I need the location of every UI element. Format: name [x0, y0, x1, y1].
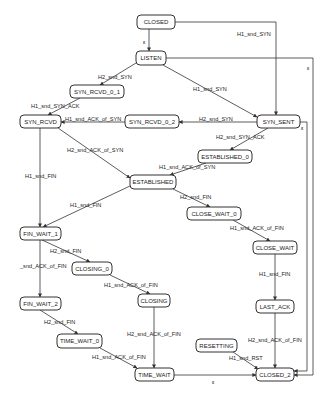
node-established-0: ESTABLISHED_0: [198, 150, 252, 163]
edge-label-est-closewait0: H2_snd_FIN: [180, 194, 211, 200]
edge-labels: ε H1_snd_SYN H2_snd_SYN H1_snd_SYN ε H1_…: [19, 31, 310, 385]
node-syn-rcvd-0-2: SYN_RCVD_0_2: [125, 115, 179, 128]
node-close-wait: CLOSE_WAIT: [253, 241, 297, 254]
edge-label-lastack-closed2: H2_snd_ACK_of_FIN: [248, 337, 302, 343]
nodes: CLOSED LISTEN SYN_RCVD_0_1 SYN_RCVD SYN_…: [20, 15, 300, 381]
node-syn-sent: SYN_SENT: [257, 115, 300, 128]
node-label-syn-rcvd-0-1: SYN_RCVD_0_1: [74, 89, 121, 95]
node-time-wait: TIME_WAIT: [135, 368, 174, 381]
node-label-resetting: RESETTING: [199, 343, 234, 349]
node-label-fin-wait-1: FIN_WAIT_1: [23, 231, 58, 237]
node-listen: LISTEN: [136, 51, 166, 65]
edge-label-timewait-closed2: ε: [212, 379, 215, 385]
edge-label-listen-closed2: ε: [307, 65, 310, 71]
node-label-closed-2: CLOSED_2: [259, 372, 291, 378]
node-label-syn-rcvd: SYN_RCVD: [24, 119, 57, 125]
edge-label-finwait2-timewait0: H2_snd_FIN: [44, 319, 75, 325]
node-fin-wait-2: FIN_WAIT_2: [20, 297, 61, 310]
node-label-fin-wait-2: FIN_WAIT_2: [23, 301, 58, 307]
node-closing-0: CLOSING_0: [72, 262, 112, 275]
edge-label-est-finwait1: H1_snd_FIN: [70, 202, 101, 208]
edge-label-synsent-synrcvd02: H2_snd_SYN: [199, 116, 233, 122]
edge-label-closing-timewait: H2_snd_ACK_of_FIN: [127, 331, 181, 337]
edge-label-closing0-closing: H1_snd_ACK_of_FIN: [104, 282, 158, 288]
edge-label-timewait0-timewait: H1_snd_ACK_of_FIN: [92, 354, 146, 360]
node-label-closed: CLOSED: [144, 19, 169, 25]
edge-label-closewait0-closewait: H1_snd_ACK_of_FIN: [230, 225, 284, 231]
edge-label-synsent-closed2: ε: [301, 125, 304, 131]
edge-label-closed-listen: ε: [143, 39, 146, 45]
node-fin-wait-1: FIN_WAIT_1: [20, 227, 61, 240]
edge-label-synrcvd-finwait1: H1_snd_FIN: [25, 173, 56, 179]
node-close-wait-0: CLOSE_WAIT_0: [187, 207, 241, 220]
edge-label-listen-synrcvd01: H2_snd_SYN: [98, 74, 132, 80]
edge-synrcvd-est: [58, 128, 130, 178]
node-label-established: ESTABLISHED: [133, 179, 175, 185]
node-established: ESTABLISHED: [130, 175, 176, 189]
edge-label-synsent-est0: H2_snd_SYN_ACK: [216, 134, 265, 140]
edge-label-closed-synsent: H1_snd_SYN: [237, 31, 271, 37]
edges: [40, 22, 313, 375]
edge-label-resetting-closed2: H1_snd_RST: [229, 355, 263, 361]
node-closed: CLOSED: [137, 15, 175, 29]
edge-label-finwait1-finwait2: _snd_ACK_of_FIN: [19, 263, 67, 269]
edge-label-synrcvd-est: H2_snd_ACK_of_SYN: [67, 147, 123, 153]
edge-label-synrcvd02-synrcvd: H1_snd_ACK_of_SYN: [65, 116, 121, 122]
edge-label-listen-synsent: H1_snd_SYN: [193, 86, 227, 92]
edge-label-synrcvd01-synrcvd: H1_snd_SYN_ACK: [31, 103, 80, 109]
node-last-ack: LAST_ACK: [256, 300, 294, 313]
node-label-close-wait-0: CLOSE_WAIT_0: [191, 211, 237, 217]
edge-label-est0-est: H1_snd_ACK_of_SYN: [159, 164, 215, 170]
node-syn-rcvd: SYN_RCVD: [20, 115, 61, 128]
edge-label-finwait1-closing0: H2_snd_FIN: [50, 248, 81, 254]
node-label-syn-rcvd-0-2: SYN_RCVD_0_2: [129, 119, 176, 125]
node-label-closing-0: CLOSING_0: [75, 266, 109, 272]
node-label-closing: CLOSING: [140, 298, 167, 304]
node-label-listen: LISTEN: [140, 55, 161, 61]
node-closed-2: CLOSED_2: [256, 368, 294, 381]
state-diagram: ε H1_snd_SYN H2_snd_SYN H1_snd_SYN ε H1_…: [0, 0, 331, 402]
node-label-close-wait: CLOSE_WAIT: [256, 245, 295, 251]
node-label-established-0: ESTABLISHED_0: [201, 154, 249, 160]
node-time-wait-0: TIME_WAIT_0: [57, 334, 102, 348]
node-label-last-ack: LAST_ACK: [260, 304, 291, 310]
edge-label-closewait-lastack: H1_snd_FIN: [259, 271, 290, 277]
node-label-time-wait: TIME_WAIT: [138, 372, 171, 378]
node-label-time-wait-0: TIME_WAIT_0: [60, 338, 100, 344]
node-closing: CLOSING: [138, 294, 170, 307]
node-syn-rcvd-0-1: SYN_RCVD_0_1: [70, 85, 124, 98]
node-resetting: RESETTING: [196, 339, 237, 352]
node-label-syn-sent: SYN_SENT: [263, 119, 295, 125]
